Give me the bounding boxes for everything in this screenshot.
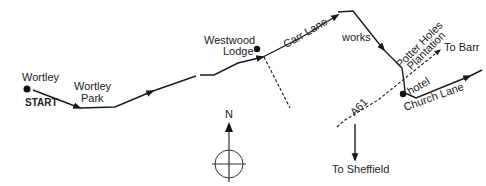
north-compass-icon xyxy=(212,122,246,182)
westwood-lodge-label-line2: Lodge xyxy=(223,45,254,57)
hotel-point-icon xyxy=(400,91,406,97)
walking-route-map: Wortley START Wortley Park Westwood Lodg… xyxy=(0,0,486,186)
wortley-label: Wortley xyxy=(22,71,59,83)
westwood-lodge-point-icon xyxy=(254,46,260,52)
works-label: works xyxy=(342,31,371,43)
wortley-park-label-line1: Wortley xyxy=(74,80,111,92)
start-label: START xyxy=(25,97,58,109)
start-point-icon xyxy=(24,86,31,93)
north-label: N xyxy=(225,108,233,120)
wortley-park-label-line2: Park xyxy=(81,92,104,104)
to-sheffield-label: To Sheffield xyxy=(332,163,389,175)
to-barnsley-label: To Barr xyxy=(444,41,479,53)
